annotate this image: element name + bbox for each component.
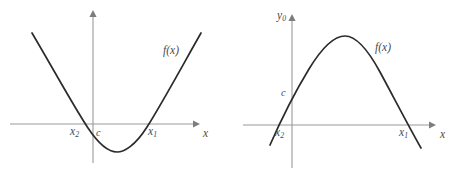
root-label-x1-right: x1 [399, 127, 408, 139]
x-axis-label-right: x [440, 129, 445, 141]
root-label-x1-left: x1 [148, 126, 157, 138]
y-intercept-label-c-right: c [281, 88, 286, 99]
y-axis-arrowhead-icon [288, 14, 295, 21]
left-panel-svg [0, 0, 234, 175]
panel-left-upward-parabola: f(x) x2 x1 c x [0, 0, 234, 175]
right-panel-svg [233, 0, 467, 175]
function-label-fx-right: f(x) [375, 42, 391, 54]
x-axis-label-left: x [203, 128, 208, 140]
root-label-x2-right: x2 [275, 127, 284, 139]
x-axis-arrowhead-icon [429, 121, 436, 128]
root-label-x2-left: x2 [70, 126, 79, 138]
x-axis-arrowhead-icon [193, 120, 200, 127]
y-axis-label-right: y0 [277, 10, 286, 22]
y-axis-arrowhead-icon [89, 10, 96, 17]
figure-container: f(x) x2 x1 c x y0 f(x) c x2 x1 x [0, 0, 467, 175]
function-label-fx-left: f(x) [163, 45, 179, 57]
panel-right-downward-parabola: y0 f(x) c x2 x1 x [233, 0, 467, 175]
y-intercept-label-c-left: c [96, 128, 101, 139]
